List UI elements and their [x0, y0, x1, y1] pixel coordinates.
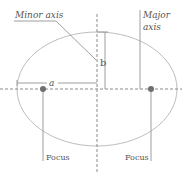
semi-minor-label: b	[100, 57, 106, 68]
major-axis-label-line1: Major	[142, 10, 171, 20]
focus-right-point	[148, 86, 154, 92]
ellipse-diagram: a b Major axis Minor axis Focus Focus	[0, 0, 182, 174]
focus-left-point	[40, 86, 46, 92]
focus-left-label: Focus	[46, 153, 70, 162]
minor-axis-label: Minor axis	[14, 10, 64, 20]
minor-axis-leader	[56, 21, 96, 60]
semi-major-label: a	[49, 78, 54, 88]
focus-right-label: Focus	[125, 153, 149, 162]
major-axis-label-line2: axis	[143, 22, 161, 32]
